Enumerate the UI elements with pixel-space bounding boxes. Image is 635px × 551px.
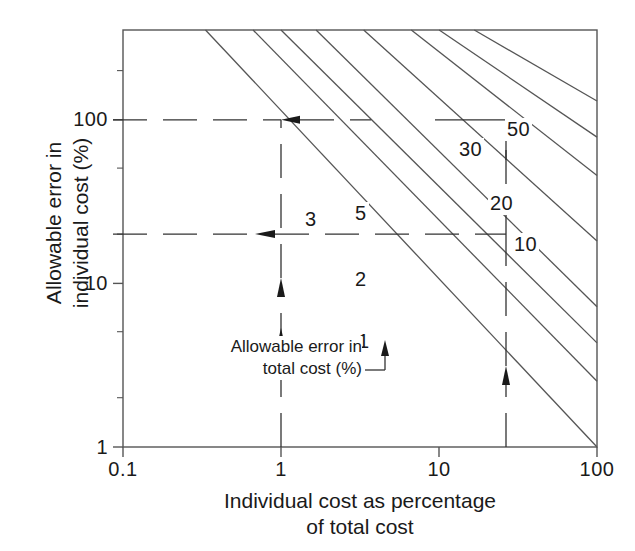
y-axis-title-line2: individual cost (%) [67,88,94,358]
iso-line-3 [281,30,597,343]
x-tick-label-100: 100 [557,458,635,481]
y-axis-title-line1: Allowable error in [40,88,67,358]
x-tick-label-0_1: 0.1 [83,458,163,481]
iso-line-label-50: 50 [505,118,532,141]
figure-container: 100 10 1 0.1 1 10 100 50 30 20 10 5 3 2 … [0,0,635,551]
x-axis-title-line2: of total cost [120,514,600,540]
x-axis-title: Individual cost as percentage of total c… [120,488,600,540]
iso-line-label-5: 5 [353,202,369,225]
y-tick-label-1: 1 [36,436,108,459]
annotation-line2: total cost (%) [140,358,362,380]
arrow-up-x25 [502,366,510,385]
iso-line-50 [474,30,597,101]
y-axis-title: Allowable error in individual cost (%) [40,88,94,358]
iso-line-label-30: 30 [457,138,484,161]
iso-line-label-3: 3 [303,208,319,231]
iso-line-5 [316,30,597,307]
iso-line-2 [253,30,597,381]
annotation-line1: Allowable error in [140,336,362,358]
iso-line-label-2: 2 [353,268,369,291]
iso-line-20 [411,30,597,176]
x-tick-label-10: 10 [399,458,479,481]
x-axis-ticks [123,447,597,457]
iso-line-10 [364,30,597,241]
iso-line-label-10: 10 [512,233,539,256]
annotation-allowable-error-total-cost: Allowable error in total cost (%) [140,336,362,380]
arrow-left-100 [281,116,300,124]
arrow-left-20 [255,230,275,238]
iso-line-label-20: 20 [488,192,515,215]
arrow-up-x1 [277,278,285,297]
x-axis-title-line1: Individual cost as percentage [120,488,600,514]
x-tick-label-1: 1 [241,458,321,481]
annotation-arrow-up [381,340,389,356]
